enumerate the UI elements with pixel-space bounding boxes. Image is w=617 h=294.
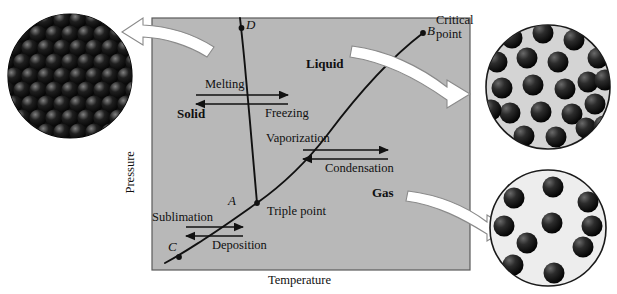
critical-point-annotation-line2: point [436,28,462,42]
point-A-dot [254,200,260,206]
region-label-liquid: Liquid [306,57,344,71]
point-label-B: B [427,24,435,38]
triple-point-annotation: Triple point [267,205,326,219]
point-D-dot [239,25,245,31]
gas-inset [490,170,606,286]
x-axis-label: Temperature [268,274,331,288]
process-label-vaporization: Vaporization [266,132,330,146]
process-label-deposition: Deposition [212,239,267,253]
point-label-A: A [228,194,236,208]
liquid-inset [481,4,616,150]
process-label-sublimation: Sublimation [152,211,213,225]
point-label-D: D [246,18,255,32]
y-axis-label: Pressure [124,151,138,193]
process-label-melting: Melting [205,78,245,92]
solid-inset-particles [0,11,143,140]
process-label-condensation: Condensation [325,162,394,176]
region-label-gas: Gas [372,186,394,200]
critical-point-annotation-line1: Critical [436,14,474,28]
figure-canvas: Pressure Temperature Solid Liquid Gas A … [0,0,617,294]
region-label-solid: Solid [177,107,205,121]
process-label-freezing: Freezing [265,107,309,121]
diagram-graphics [0,0,617,294]
point-C-dot [176,254,182,260]
point-label-C: C [168,240,177,254]
solid-inset [0,11,143,140]
point-B-dot [420,30,426,36]
